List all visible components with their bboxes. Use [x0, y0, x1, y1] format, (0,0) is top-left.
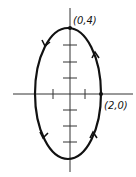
- point-top: [68, 26, 72, 30]
- ellipse-diagram: (0,4) (2,0): [0, 0, 136, 177]
- label-top-point: (0,4): [73, 15, 97, 26]
- point-right: [99, 92, 103, 96]
- label-right-point: (2,0): [104, 100, 128, 111]
